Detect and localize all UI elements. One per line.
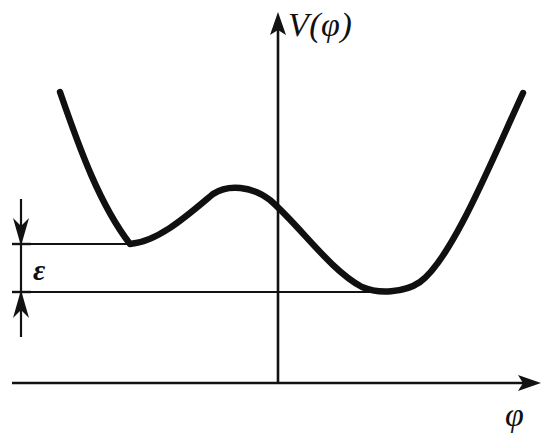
potential-curve: [60, 92, 523, 291]
y-axis-label: V(φ): [288, 8, 352, 42]
potential-diagram-figure: V(φ) φ ε: [0, 0, 556, 443]
x-axis-label: φ: [505, 398, 524, 432]
y-axis-group: [270, 12, 286, 383]
epsilon-gap-label: ε: [33, 255, 45, 285]
figure-canvas: [0, 0, 556, 443]
x-axis-group: [12, 375, 541, 391]
epsilon-gap-indicator: [12, 199, 31, 337]
